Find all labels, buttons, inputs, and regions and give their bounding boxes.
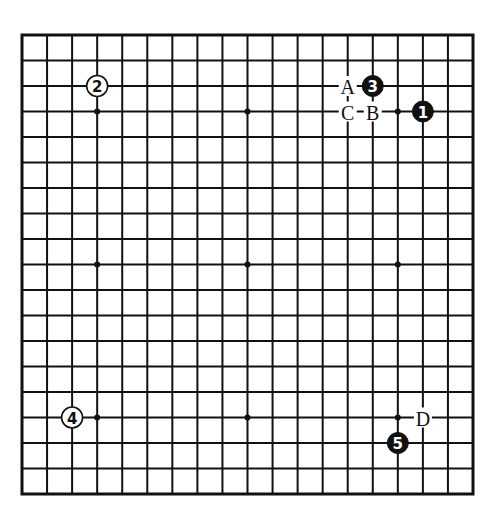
star-point: [245, 262, 251, 268]
star-point: [245, 109, 251, 115]
white-stone-4: 4: [62, 407, 83, 428]
black-stone-1: 1: [412, 101, 433, 122]
point-labels: ABCD: [339, 76, 432, 430]
move-number: 2: [92, 78, 102, 96]
move-number: 4: [67, 410, 77, 428]
point-label-d: D: [414, 408, 432, 430]
move-number: 1: [418, 104, 428, 122]
go-board: ABCD 12345: [0, 0, 492, 525]
black-stone-3: 3: [362, 76, 383, 97]
label-text: A: [340, 76, 355, 98]
point-label-a: A: [339, 76, 357, 98]
label-text: C: [341, 102, 354, 124]
point-label-c: C: [339, 102, 357, 124]
star-point: [94, 109, 100, 115]
point-label-b: B: [364, 102, 382, 124]
label-text: D: [416, 408, 430, 430]
black-stone-5: 5: [387, 433, 408, 454]
star-point: [395, 415, 401, 421]
star-point: [94, 415, 100, 421]
star-point: [94, 262, 100, 268]
move-number: 3: [368, 78, 378, 96]
label-text: B: [366, 102, 379, 124]
star-point: [395, 109, 401, 115]
white-stone-2: 2: [87, 76, 108, 97]
star-point: [395, 262, 401, 268]
move-number: 5: [393, 435, 403, 453]
star-point: [245, 415, 251, 421]
